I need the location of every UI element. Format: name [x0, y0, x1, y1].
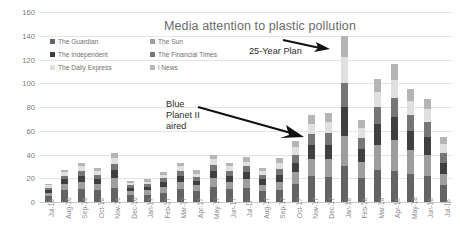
bar-segment — [210, 178, 217, 186]
bar-segment — [358, 138, 365, 149]
bar-segment — [374, 79, 381, 92]
bar-column[interactable] — [370, 12, 386, 202]
x-axis-tick-label: Jun-18 — [427, 198, 434, 218]
bar-segment — [341, 136, 348, 167]
y-axis-tick-label: 0 — [31, 198, 35, 207]
stacked-bar[interactable] — [374, 79, 381, 203]
stacked-bar[interactable] — [78, 163, 85, 202]
y-axis-tick-label: 120 — [22, 55, 35, 64]
stacked-bar[interactable] — [424, 99, 431, 202]
bar-segment — [440, 144, 447, 154]
x-axis-label-slot: Nov-16 — [106, 206, 122, 248]
bar-column[interactable] — [139, 12, 155, 202]
x-axis-tick-label: Sep-17 — [279, 197, 286, 218]
x-axis-labels: Jul-16Aug-16Sep-16Oct-16Nov-16Dec-16Jan-… — [40, 206, 452, 248]
blue-planet-annotation: Blue Planet II aired — [166, 99, 200, 132]
bar-column[interactable] — [106, 12, 122, 202]
stacked-bar[interactable] — [391, 64, 398, 202]
bar-segment — [424, 109, 431, 122]
bar-column[interactable] — [403, 12, 419, 202]
bar-segment — [391, 64, 398, 79]
bar-segment — [292, 147, 299, 154]
bar-segment — [374, 107, 381, 124]
bar-segment — [292, 163, 299, 173]
stacked-bar[interactable] — [341, 36, 348, 202]
bar-segment — [391, 140, 398, 171]
bar-segment — [374, 145, 381, 170]
bar-segment — [341, 36, 348, 57]
stacked-bar[interactable] — [111, 153, 118, 202]
bar-segment — [308, 124, 315, 135]
bar-segment — [292, 172, 299, 184]
x-axis-label-slot: Jul-17 — [238, 206, 254, 248]
bar-segment — [308, 159, 315, 176]
stacked-bar[interactable] — [407, 89, 414, 202]
stacked-bar[interactable] — [243, 157, 250, 202]
bar-segment — [374, 92, 381, 107]
x-axis-label-slot: Feb-18 — [353, 206, 369, 248]
bar-column[interactable] — [419, 12, 435, 202]
x-axis-tick-label: Nov-17 — [312, 197, 319, 218]
stacked-bar[interactable] — [440, 137, 447, 202]
stacked-bar[interactable] — [292, 141, 299, 202]
bar-segment — [424, 155, 431, 176]
bar-segment — [325, 133, 332, 145]
bar-segment — [440, 174, 447, 186]
y-axis-tick-label: 160 — [22, 8, 35, 17]
bar-column[interactable] — [122, 12, 138, 202]
bar-segment — [407, 115, 414, 130]
bar-segment — [341, 166, 348, 202]
stacked-bar[interactable] — [308, 115, 315, 202]
bar-segment — [325, 122, 332, 133]
chart-container: Media attention to plastic pollution The… — [0, 0, 460, 249]
x-axis-label-slot: May-17 — [205, 206, 221, 248]
x-axis-tick-label: Aug-17 — [263, 197, 270, 218]
x-axis-tick-label: Mar-18 — [378, 198, 385, 219]
x-axis-tick-label: Mar-17 — [180, 198, 187, 219]
stacked-bar[interactable] — [177, 163, 184, 202]
bar-column[interactable] — [386, 12, 402, 202]
bar-segment — [325, 113, 332, 123]
x-axis-tick-label: Dec-17 — [328, 197, 335, 218]
x-axis-label-slot: Feb-17 — [155, 206, 171, 248]
stacked-bar[interactable] — [325, 113, 332, 202]
bar-segment — [226, 182, 233, 189]
x-axis-tick-label: Dec-16 — [131, 197, 138, 218]
stacked-bar[interactable] — [226, 163, 233, 202]
bar-segment — [308, 134, 315, 145]
x-axis-tick-label: May-17 — [213, 197, 220, 219]
x-axis-label-slot: Jan-18 — [337, 206, 353, 248]
blue-planet-arrow-icon — [196, 105, 308, 141]
stacked-bar[interactable] — [94, 168, 101, 202]
25-year-plan-arrow-icon — [282, 37, 332, 57]
bar-segment — [391, 117, 398, 141]
x-axis-tick-label: Nov-16 — [114, 197, 121, 218]
x-axis-tick-label: Feb-17 — [164, 198, 171, 219]
stacked-bar[interactable] — [358, 120, 365, 202]
bar-column[interactable] — [73, 12, 89, 202]
x-axis-label-slot: Oct-17 — [287, 206, 303, 248]
y-axis-tick-label: 20 — [27, 174, 35, 183]
x-axis-label-slot: Dec-16 — [122, 206, 138, 248]
bar-segment — [407, 131, 414, 150]
stacked-bar[interactable] — [276, 158, 283, 202]
x-axis-label-slot: Aug-17 — [254, 206, 270, 248]
bar-segment — [111, 170, 118, 178]
bar-segment — [341, 83, 348, 107]
y-axis: 020406080100120140160 — [0, 0, 38, 215]
x-axis-label-slot: Dec-17 — [320, 206, 336, 248]
x-axis-tick-label: Oct-17 — [296, 198, 303, 218]
bar-segment — [440, 163, 447, 174]
bar-segment — [391, 80, 398, 98]
bar-column[interactable] — [436, 12, 452, 202]
bar-column[interactable] — [337, 12, 353, 202]
x-axis-label-slot: Apr-17 — [188, 206, 204, 248]
bar-column[interactable] — [353, 12, 369, 202]
stacked-bar[interactable] — [210, 155, 217, 203]
bar-column[interactable] — [56, 12, 72, 202]
bar-column[interactable] — [89, 12, 105, 202]
bar-column[interactable] — [40, 12, 56, 202]
bar-segment — [276, 182, 283, 190]
x-axis-label-slot: Jun-17 — [221, 206, 237, 248]
bar-segment — [341, 107, 348, 136]
